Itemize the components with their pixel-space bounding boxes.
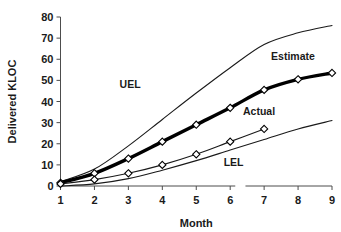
data-point-marker-estimate: [328, 69, 335, 76]
x-tick-label: 3: [125, 194, 131, 206]
data-point-marker-actual: [227, 138, 234, 145]
data-point-marker-estimate: [294, 76, 301, 83]
y-tick-label: 30: [41, 117, 53, 129]
y-tick-label: 0: [47, 180, 53, 192]
x-tick-label: 9: [329, 194, 335, 206]
y-tick-label: 40: [41, 96, 53, 108]
series-annotation-actual: Actual: [243, 105, 275, 117]
data-point-marker-actual: [125, 170, 132, 177]
data-point-marker-actual: [159, 161, 166, 168]
chart-container: 01020304050607080123456789MonthDelivered…: [0, 0, 341, 232]
data-point-marker-actual: [91, 176, 98, 183]
x-axis-title: Month: [180, 217, 213, 229]
y-tick-label: 50: [41, 74, 53, 86]
x-tick-label: 6: [227, 194, 233, 206]
x-tick-label: 1: [57, 194, 63, 206]
y-tick-label: 60: [41, 53, 53, 65]
data-point-marker-actual: [261, 125, 268, 132]
x-tick-label: 5: [193, 194, 199, 206]
series-annotation-estimate: Estimate: [271, 50, 315, 62]
series-annotation-uel: UEL: [120, 78, 142, 90]
x-tick-label: 4: [159, 194, 166, 206]
x-tick-label: 7: [261, 194, 267, 206]
series-annotation-lel: LEL: [224, 156, 244, 168]
y-tick-label: 80: [41, 11, 53, 23]
data-point-marker-actual: [193, 151, 200, 158]
x-tick-label: 2: [91, 194, 97, 206]
y-axis-title: Delivered KLOC: [6, 60, 18, 144]
y-tick-label: 10: [41, 159, 53, 171]
y-tick-label: 20: [41, 138, 53, 150]
line-chart: 01020304050607080123456789MonthDelivered…: [0, 0, 341, 232]
x-tick-label: 8: [295, 194, 301, 206]
y-tick-label: 70: [41, 32, 53, 44]
